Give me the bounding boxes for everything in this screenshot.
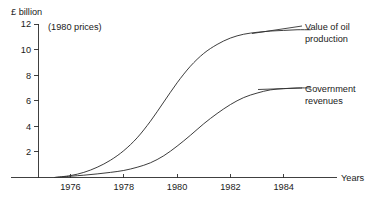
annotation-government-revenues: Government revenues [305, 84, 356, 106]
prices-note-label: (1980 prices) [48, 22, 102, 32]
x-tick-label: 1984 [273, 182, 293, 192]
annotation-gov-line2: revenues [305, 96, 343, 106]
y-tick-label: 6 [26, 96, 31, 106]
oil-production-line-chart: 24681012 19761978198019821984 £ billion … [0, 0, 380, 206]
annotation-oil-line2: production [305, 34, 348, 44]
x-tick-label: 1982 [220, 182, 240, 192]
y-tick-label: 4 [26, 122, 31, 132]
x-axis-ticks: 19761978198019821984 [60, 174, 294, 193]
x-axis-label: Years [341, 173, 365, 183]
chart-container: 24681012 19761978198019821984 £ billion … [0, 0, 380, 206]
series-group [54, 30, 310, 178]
y-tick-label: 8 [26, 71, 31, 81]
y-tick-label: 12 [21, 19, 31, 29]
series-line-oil-production [54, 30, 310, 178]
y-tick-label: 10 [21, 45, 31, 55]
y-axis-ticks: 24681012 [21, 19, 39, 157]
axes-group [11, 24, 337, 178]
annotation-leaders [252, 26, 302, 90]
series-line-government-revenues [54, 88, 310, 178]
annotation-oil-production: Value of oil production [305, 22, 350, 44]
annotation-oil-line1: Value of oil [305, 22, 350, 32]
x-tick-label: 1980 [167, 182, 187, 192]
x-tick-label: 1976 [60, 182, 80, 192]
y-axis-unit-label: £ billion [11, 7, 42, 17]
y-tick-label: 2 [26, 147, 31, 157]
annotation-gov-line1: Government [305, 84, 356, 94]
x-tick-label: 1978 [114, 182, 134, 192]
